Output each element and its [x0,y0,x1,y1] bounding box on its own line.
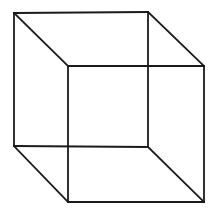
edge-back-top-left-to-back-top-right [14,12,148,13]
cube-wireframe [0,0,211,216]
necker-cube-figure [0,0,211,216]
edge-back-bottom-right-to-back-bottom-left [14,146,148,147]
background [0,0,211,216]
